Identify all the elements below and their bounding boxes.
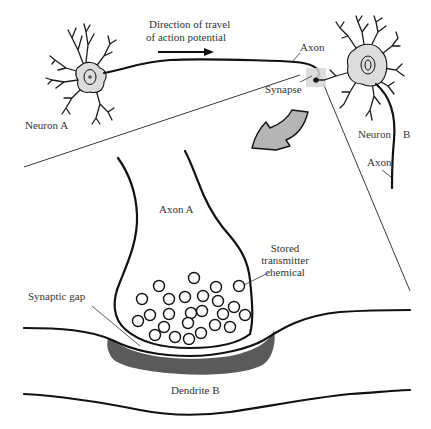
stored-label-line3: chemical (265, 266, 305, 278)
axon-b-label: Axon (367, 156, 392, 168)
neuron-a-axon (104, 59, 319, 80)
vesicle (218, 309, 229, 320)
vesicle (240, 310, 251, 321)
zoom-in-arrow-icon (252, 110, 308, 150)
vesicle (196, 328, 207, 339)
vesicle (198, 291, 209, 302)
vesicle (164, 309, 175, 320)
direction-arrow (158, 48, 214, 56)
neuron-a-nucleolus (88, 75, 92, 79)
stored-label-line2: transmitter (261, 254, 309, 266)
direction-label-line2: of action potential (146, 31, 226, 43)
neuron-a-label: Neuron A (25, 119, 68, 131)
transmitter-vesicles (133, 273, 251, 345)
vesicle (159, 322, 170, 333)
axon-top-label: Axon (300, 41, 325, 53)
vesicle (211, 282, 222, 293)
neuron-synapse-diagram: Direction of travel of action potential … (0, 0, 431, 429)
direction-label-line1: Direction of travel (149, 18, 230, 30)
vesicle (213, 296, 224, 307)
vesicle (183, 318, 194, 329)
dendrite-b-upper-edge (24, 310, 410, 356)
neuron-b-label: Neuron (358, 128, 391, 140)
vesicle (180, 292, 191, 303)
neuron-b-letter-label: B (403, 128, 410, 140)
synapse-label: Synapse (265, 83, 302, 95)
vesicle (154, 281, 165, 292)
axon-b-leader (382, 170, 391, 177)
vesicle (197, 306, 208, 317)
stored-label-line1: Stored (271, 242, 300, 254)
neuron-b-cell-body (347, 44, 386, 86)
dendrite-b-label: Dendrite B (171, 384, 220, 396)
vesicle (234, 281, 245, 292)
vesicle (225, 322, 236, 333)
axon-top-leader (292, 53, 300, 62)
vesicle (133, 316, 144, 327)
vesicle (184, 334, 195, 345)
vesicle (170, 332, 181, 343)
vesicle (189, 273, 200, 284)
vesicle (229, 302, 240, 313)
vesicle (164, 294, 175, 305)
vesicle (186, 308, 197, 319)
vesicle (145, 310, 156, 321)
axon-a-label: Axon A (159, 203, 194, 215)
synaptic-gap-label: Synaptic gap (28, 290, 86, 302)
vesicle (210, 320, 221, 331)
vesicle (150, 330, 161, 341)
vesicle (137, 294, 148, 305)
